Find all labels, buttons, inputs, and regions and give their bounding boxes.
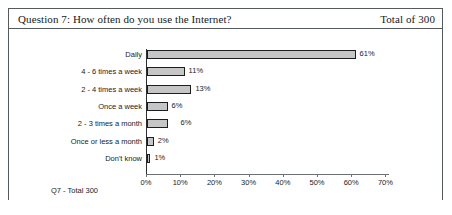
bar-chart-plot: Daily61%4 - 6 times a week11%2 - 4 times… (9, 29, 442, 170)
category-label: 2 - 3 times a month (12, 119, 146, 129)
category-label: Once or less a month (12, 137, 146, 147)
x-axis-tick (146, 174, 147, 177)
x-axis-tick-label: 30% (241, 178, 256, 187)
bar-row: Once a week6% (9, 101, 442, 118)
bar-value-label: 2% (158, 135, 169, 146)
bar (147, 102, 168, 111)
x-axis-tick-label: 20% (207, 178, 222, 187)
category-label: Once a week (12, 102, 146, 112)
chart-area: Daily61%4 - 6 times a week11%2 - 4 times… (9, 29, 442, 200)
bar-row: Once or less a month2% (9, 136, 442, 153)
category-label: 2 - 4 times a week (12, 85, 146, 95)
bar-value-label: 11% (189, 65, 203, 76)
bar-value-label: 1% (154, 152, 165, 163)
bar-value-label: 61% (360, 48, 375, 59)
x-axis-tick (180, 174, 181, 177)
bar (147, 67, 185, 76)
category-label: 4 - 6 times a week (12, 67, 146, 77)
bar (147, 85, 191, 94)
bar (147, 50, 356, 59)
bar-value-label: 6% (172, 100, 183, 111)
page-title: Question 7: How often do you use the Int… (18, 13, 232, 25)
bar-value-label: 6% (181, 117, 192, 128)
bar-value-label: 13% (195, 83, 210, 94)
x-axis-tick-label: 70% (378, 178, 393, 187)
x-axis-tick-label: 60% (344, 178, 359, 187)
bar-row: 2 - 4 times a week13% (9, 84, 442, 101)
x-axis-tick (249, 174, 250, 177)
x-axis-tick (385, 174, 386, 177)
bar (147, 154, 150, 163)
x-axis-tick (317, 174, 318, 177)
x-axis-tick-label: 0% (141, 178, 152, 187)
x-axis-tick (214, 174, 215, 177)
bar-row: 2 - 3 times a month6% (9, 118, 442, 135)
x-axis-tick-label: 40% (275, 178, 290, 187)
bar-row: Daily61% (9, 49, 442, 66)
bar (147, 137, 154, 146)
category-label: Don't know (12, 154, 146, 164)
x-axis-tick-label: 50% (309, 178, 324, 187)
category-label: Daily (12, 50, 146, 60)
x-axis-tick-label: 10% (173, 178, 188, 187)
report-panel: Question 7: How often do you use the Int… (8, 8, 443, 200)
bar-row: 4 - 6 times a week11% (9, 66, 442, 83)
chart-footer-label: Q7 - Total 300 (51, 186, 98, 195)
bar (147, 119, 168, 128)
panel-header: Question 7: How often do you use the Int… (9, 9, 442, 29)
x-axis-tick (351, 174, 352, 177)
total-count-label: Total of 300 (380, 13, 435, 25)
x-axis-tick (283, 174, 284, 177)
bar-row: Don't know1% (9, 153, 442, 170)
